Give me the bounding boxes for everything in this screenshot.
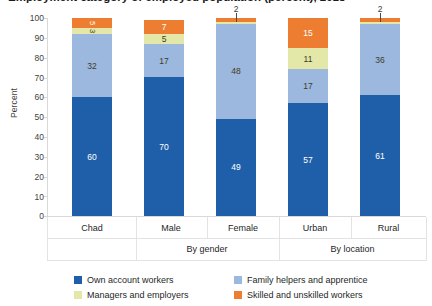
segment-value: 3 xyxy=(88,29,96,33)
bar-urban[interactable]: 15 11 17 57 xyxy=(288,18,328,216)
legend-label: Own account workers xyxy=(87,275,174,285)
segment-chad-own[interactable]: 60 xyxy=(72,97,112,216)
segment-urban-managers[interactable]: 11 xyxy=(288,48,328,70)
segment-chad-skilled[interactable]: 5 xyxy=(72,18,112,28)
segment-value: 57 xyxy=(288,155,328,164)
segment-value: 5 xyxy=(144,35,184,44)
y-tick-30: 30 xyxy=(18,153,44,162)
y-tick-80: 80 xyxy=(18,54,44,63)
plot-area: 5 3 32 60 7 5 17 70 xyxy=(47,18,427,216)
y-axis-ticks: 100 90 80 70 60 50 40 30 20 10 0 xyxy=(12,0,44,306)
segment-urban-skilled[interactable]: 15 xyxy=(288,18,328,48)
bar-male[interactable]: 7 5 17 70 xyxy=(144,20,184,216)
bar-female[interactable]: 2 1 48 49 xyxy=(216,18,256,216)
segment-value: 7 xyxy=(144,23,184,32)
y-tick-50: 50 xyxy=(18,113,44,122)
segment-value: 36 xyxy=(360,55,400,64)
segment-chad-family[interactable]: 32 xyxy=(72,34,112,97)
category-label-male: Male xyxy=(135,217,208,239)
legend-label: Managers and employers xyxy=(87,290,189,300)
segment-male-family[interactable]: 17 xyxy=(144,44,184,78)
segment-female-family[interactable]: 48 xyxy=(216,24,256,119)
segment-urban-family[interactable]: 17 xyxy=(288,69,328,103)
segment-value: 60 xyxy=(72,152,112,161)
legend-swatch-icon xyxy=(234,276,242,284)
segment-value: 48 xyxy=(216,67,256,76)
y-tick-10: 10 xyxy=(18,193,44,202)
segment-male-managers[interactable]: 5 xyxy=(144,34,184,44)
legend-row: Managers and employers Skilled and unski… xyxy=(74,287,374,302)
legend-swatch-icon xyxy=(74,276,82,284)
category-label-female: Female xyxy=(207,217,280,239)
segment-female-own[interactable]: 49 xyxy=(216,119,256,216)
y-tick-60: 60 xyxy=(18,93,44,102)
group-label-blank xyxy=(47,238,137,261)
bar-chad[interactable]: 5 3 32 60 xyxy=(72,18,112,216)
y-tick-40: 40 xyxy=(18,133,44,142)
segment-value: 32 xyxy=(72,61,112,70)
segment-male-own[interactable]: 70 xyxy=(144,77,184,216)
segment-value: 17 xyxy=(288,82,328,91)
segment-male-skilled[interactable]: 7 xyxy=(144,20,184,34)
legend-swatch-icon xyxy=(74,291,82,299)
legend-row: Own account workers Family helpers and a… xyxy=(74,272,374,287)
segment-urban-own[interactable]: 57 xyxy=(288,103,328,216)
group-label-location: By location xyxy=(279,238,427,261)
category-axis: Chad Male Female Urban Rural By gender B… xyxy=(47,217,426,260)
segment-value: 5 xyxy=(88,21,96,25)
y-tick-90: 90 xyxy=(18,34,44,43)
legend-item-own-account-workers[interactable]: Own account workers xyxy=(74,275,234,285)
group-label-gender: By gender xyxy=(135,238,280,261)
chart-legend: Own account workers Family helpers and a… xyxy=(74,272,374,302)
legend-label: Skilled and unskilled workers xyxy=(247,290,363,300)
legend-item-family-helpers-and-apprentice[interactable]: Family helpers and apprentice xyxy=(234,275,368,285)
legend-swatch-icon xyxy=(234,291,242,299)
bar-rural[interactable]: 2 1 36 61 xyxy=(360,18,400,216)
segment-value: 17 xyxy=(144,56,184,65)
y-tick-70: 70 xyxy=(18,74,44,83)
segment-rural-family[interactable]: 36 xyxy=(360,24,400,95)
y-tick-0: 0 xyxy=(18,212,44,221)
segment-value: 49 xyxy=(216,163,256,172)
category-label-rural: Rural xyxy=(351,217,427,239)
segment-value: 70 xyxy=(144,142,184,151)
y-tick-100: 100 xyxy=(18,14,44,23)
legend-label: Family helpers and apprentice xyxy=(247,275,368,285)
legend-item-managers-and-employers[interactable]: Managers and employers xyxy=(74,290,234,300)
legend-item-skilled-and-unskilled-workers[interactable]: Skilled and unskilled workers xyxy=(234,290,363,300)
segment-value: 15 xyxy=(288,29,328,38)
segment-rural-own[interactable]: 61 xyxy=(360,95,400,216)
stacked-bar-chart: Percent 100 90 80 70 60 50 40 30 20 10 0… xyxy=(0,0,432,306)
y-tick-20: 20 xyxy=(18,173,44,182)
segment-value: 61 xyxy=(360,151,400,160)
segment-value: 11 xyxy=(288,54,328,63)
category-label-chad: Chad xyxy=(47,217,137,239)
category-label-urban: Urban xyxy=(279,217,352,239)
